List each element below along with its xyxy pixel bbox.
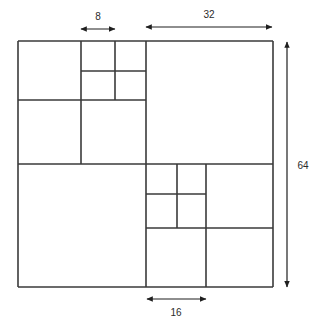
squared-square-figure: 8326416 — [0, 0, 321, 327]
dimension-annotations — [81, 27, 287, 299]
dimension-label-top-width-8: 8 — [95, 11, 101, 22]
dimension-label-group: 8326416 — [95, 9, 309, 318]
figure-canvas: 8326416 — [0, 0, 321, 327]
dimension-label-top-width-32: 32 — [203, 9, 215, 20]
dimension-label-bottom-width-16: 16 — [170, 307, 182, 318]
subdivision-lines — [18, 41, 273, 287]
dimension-label-right-height-64: 64 — [297, 160, 309, 171]
